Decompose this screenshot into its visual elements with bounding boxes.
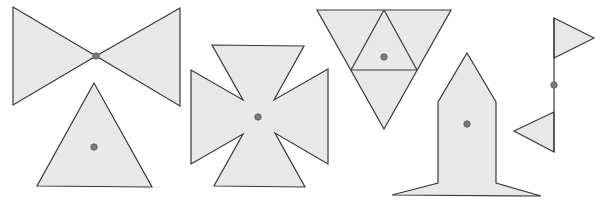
bowtie-polygon-0 xyxy=(13,7,96,105)
flags-polygon-1 xyxy=(514,112,554,152)
triangle-shape xyxy=(37,83,152,187)
maltese-cross-shape xyxy=(191,45,328,187)
subdivided-triangle-center-dot xyxy=(381,54,387,60)
rocket-center-dot xyxy=(464,121,470,127)
flags-center-dot xyxy=(551,82,557,88)
bowtie-center-dot xyxy=(93,53,99,59)
triangle-polygon-0 xyxy=(37,83,152,187)
shapes-svg xyxy=(0,0,605,205)
flags-shape xyxy=(514,18,594,152)
triangle-center-dot xyxy=(91,144,97,150)
flags-polygon-0 xyxy=(554,18,594,58)
maltese-cross-center-dot xyxy=(255,114,261,120)
subdivided-triangle-shape xyxy=(317,10,451,129)
bowtie-polygon-1 xyxy=(96,8,180,106)
figure-canvas xyxy=(0,0,605,205)
